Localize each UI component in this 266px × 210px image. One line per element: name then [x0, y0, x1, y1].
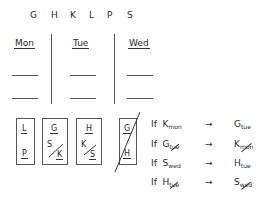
slash-icon — [48, 141, 64, 159]
cross-out-icon — [113, 110, 143, 174]
scenario-box-3: H K S — [76, 118, 102, 165]
rule-1: If Kmon — [151, 119, 182, 129]
slot-wed-1 — [127, 75, 153, 76]
rule-3-consequent: Htue — [234, 158, 251, 168]
variable-h: H — [51, 10, 58, 20]
day-label-tue: Tue — [72, 38, 89, 49]
day-label-wed: Wed — [128, 38, 150, 49]
box2-top: G — [50, 124, 58, 134]
arrow-icon: → — [205, 177, 213, 187]
scenario-box-1: L P — [16, 118, 35, 165]
column-divider — [114, 34, 115, 104]
slot-tue-2 — [70, 98, 96, 99]
rule-1-consequent: Gtue — [234, 119, 251, 129]
rule-4-consequent: Swed — [234, 177, 252, 187]
rule-4: If Htue — [151, 177, 179, 187]
variable-p: P — [107, 10, 112, 20]
slot-mon-1 — [12, 75, 38, 76]
column-divider — [51, 34, 52, 104]
box1-bottom: P — [21, 149, 28, 159]
slash-icon — [82, 141, 98, 159]
variable-s: S — [127, 10, 133, 20]
slot-tue-1 — [70, 75, 96, 76]
arrow-icon: → — [205, 139, 213, 149]
slot-mon-2 — [12, 98, 38, 99]
day-label-mon: Mon — [14, 38, 35, 49]
box3-top: H — [85, 124, 93, 134]
slot-wed-2 — [127, 98, 153, 99]
box1-top: L — [21, 124, 27, 134]
rule-2-consequent: Kmon — [234, 139, 253, 149]
variable-g: G — [30, 10, 37, 20]
scenario-box-2: G S K — [42, 118, 68, 165]
variable-k: K — [70, 10, 76, 20]
rule-3: If Swed — [151, 158, 181, 168]
rule-2: If Gtue — [151, 139, 179, 149]
variable-l: L — [89, 10, 94, 20]
arrow-icon: → — [205, 158, 213, 168]
arrow-icon: → — [205, 119, 213, 129]
